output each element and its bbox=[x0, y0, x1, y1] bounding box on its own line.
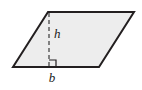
figure-canvas: h b bbox=[0, 0, 142, 90]
parallelogram-figure: h b bbox=[0, 0, 142, 90]
base-label: b bbox=[49, 70, 56, 85]
height-label: h bbox=[54, 26, 61, 41]
